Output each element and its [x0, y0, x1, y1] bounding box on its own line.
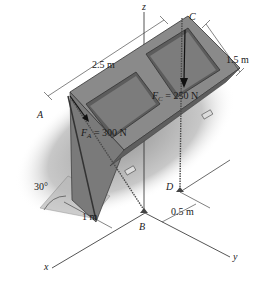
anchor-b [140, 208, 148, 213]
point-label-b: B [139, 222, 145, 232]
axis-label-z: z [142, 2, 146, 12]
force-label-a: FA = 300 N [81, 128, 127, 140]
dim-label-width: 1.5 m [226, 55, 249, 65]
point-label-a: A [37, 110, 43, 120]
y-axis [145, 213, 230, 257]
angle-label: 30° [34, 182, 48, 192]
diagram-drawing [0, 0, 256, 284]
axis-label-y: y [233, 252, 237, 262]
dim-label-length: 2.5 m [92, 60, 115, 70]
anchor-d [176, 187, 184, 192]
x-axis [52, 213, 145, 268]
diagram-canvas: z x y A B C D FA = 300 N FC = 250 N 2.5 … [0, 0, 256, 284]
axis-label-x: x [44, 262, 48, 272]
force-label-c: FC = 250 N [152, 91, 198, 103]
point-label-d: D [166, 182, 173, 192]
point-label-c: C [189, 12, 196, 22]
dim-label-y-offset: 0.5 m [171, 207, 194, 217]
dim-label-x-offset: 1 m [82, 212, 97, 222]
